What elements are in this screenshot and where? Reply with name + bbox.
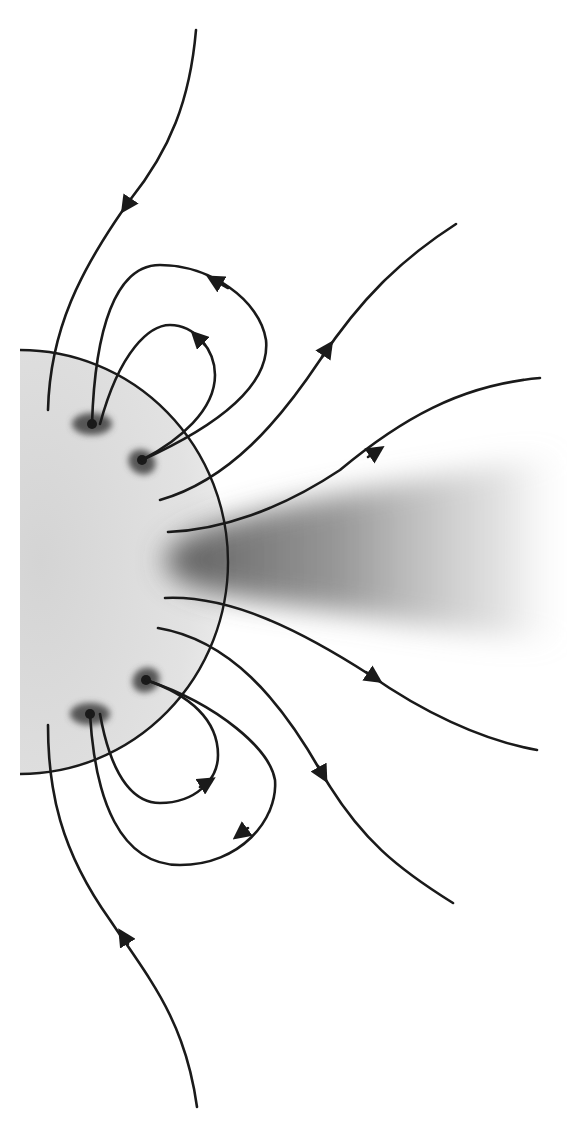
diagram-canvas (0, 0, 567, 1129)
field-line-diagram (0, 0, 567, 1129)
field-line-open-top (48, 30, 196, 410)
field-line-open-upper-right-1 (160, 224, 456, 500)
streamer-tail (165, 455, 560, 640)
field-line-open-bottom (48, 725, 197, 1107)
